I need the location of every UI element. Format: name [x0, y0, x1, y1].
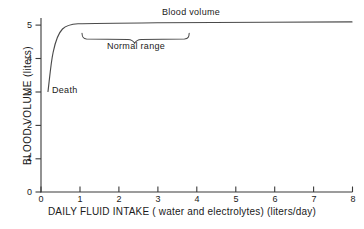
- x-tick-label-1: 1: [73, 194, 87, 204]
- x-tick-label-7: 7: [307, 194, 321, 204]
- x-axis-title: DAILY FLUID INTAKE ( water and electroly…: [0, 206, 364, 217]
- annotation-death: Death: [52, 85, 78, 95]
- x-tick-label-8: 8: [346, 194, 360, 204]
- x-tick-label-3: 3: [151, 194, 165, 204]
- x-tick-label-2: 2: [112, 194, 126, 204]
- x-axis-ticks: [41, 187, 353, 193]
- x-tick-label-4: 4: [190, 194, 204, 204]
- x-tick-label-0: 0: [34, 194, 48, 204]
- annotation-normal-range: Normal range: [96, 41, 176, 51]
- y-axis-ticks: [36, 25, 42, 192]
- x-tick-label-5: 5: [229, 194, 243, 204]
- blood-volume-vs-fluid-intake-chart: 5 4 3 2 1 0 0 1 2 3 4 5 6 7 8 BLOOD VOLU…: [0, 0, 364, 229]
- blood-volume-curve: [48, 22, 352, 92]
- y-axis-title: BLOOD VOLUME (liters): [22, 18, 33, 193]
- annotation-blood-volume: Blood volume: [151, 7, 231, 17]
- x-tick-label-6: 6: [268, 194, 282, 204]
